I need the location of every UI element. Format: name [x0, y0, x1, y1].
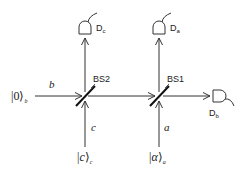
bs2-label: BS2: [93, 75, 110, 84]
mode-c-label: c: [91, 122, 96, 133]
detector-db-icon: [213, 90, 234, 106]
detector-dc-icon: [79, 13, 97, 34]
input-state-alpha-a: |α⟩a: [149, 151, 166, 165]
detector-dc-label: Dc: [96, 24, 106, 34]
detector-da-icon: [153, 13, 171, 34]
diagram-canvas: [0, 0, 242, 184]
input-state-zero-b: |0⟩b: [11, 90, 27, 104]
input-state-c: |c⟩c: [77, 151, 92, 165]
detector-db-label: Db: [209, 109, 219, 119]
mode-b-label: b: [49, 79, 55, 90]
mode-a-label: a: [164, 122, 170, 133]
detector-da-label: Da: [170, 24, 180, 34]
bs1-label: BS1: [167, 75, 184, 84]
